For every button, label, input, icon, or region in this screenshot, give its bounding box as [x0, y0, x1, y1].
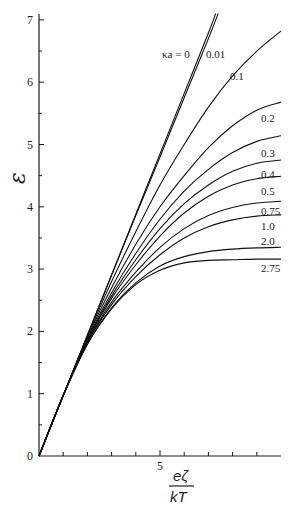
curve-0-75	[39, 201, 281, 456]
x-axis-label-denominator: kT	[170, 488, 189, 505]
curve-2-0	[39, 247, 281, 456]
label-0-3: 0.3	[261, 147, 275, 159]
y-ticks	[39, 20, 44, 425]
y-tick-label: 6	[27, 75, 33, 89]
label-0-01: 0.01	[206, 48, 225, 60]
curves	[39, 14, 281, 456]
curve-0-3	[39, 136, 281, 456]
label-1-0: 1.0	[261, 220, 275, 232]
electrophoresis-chart: 01234567 5 κa = 0 0.01 0.1 0.2 0.3 0.4 0…	[0, 0, 296, 510]
curve-2-75	[39, 259, 281, 456]
label-2-0: 2.0	[261, 235, 275, 247]
label-0-75: 0.75	[261, 205, 281, 217]
y-tick-label: 3	[27, 262, 33, 276]
label-0-2: 0.2	[261, 112, 275, 124]
curve-1-0	[39, 215, 281, 456]
y-tick-label: 4	[27, 200, 33, 214]
y-tick-label: 0	[27, 449, 33, 463]
label-0-5: 0.5	[261, 185, 275, 197]
label-ka-0: κa = 0	[162, 48, 190, 60]
y-tick-label: 5	[27, 138, 33, 152]
y-tick-labels: 01234567	[27, 13, 33, 463]
y-axis-label: ε	[5, 172, 30, 184]
x-axis-label-numerator: eζ	[173, 467, 189, 484]
label-0-1: 0.1	[230, 70, 244, 82]
x-tick-labels: 5	[157, 459, 163, 473]
x-axis-label: eζ kT	[169, 467, 194, 505]
curve-0-1	[39, 31, 281, 456]
y-tick-label: 1	[27, 387, 33, 401]
label-0-4: 0.4	[261, 168, 275, 180]
label-2-75: 2.75	[261, 262, 281, 274]
x-tick-label: 5	[157, 459, 163, 473]
y-tick-label: 7	[27, 13, 33, 27]
axes	[39, 14, 281, 456]
x-ticks	[63, 450, 257, 456]
y-tick-label: 2	[27, 324, 33, 338]
curve-0-5	[39, 176, 281, 456]
